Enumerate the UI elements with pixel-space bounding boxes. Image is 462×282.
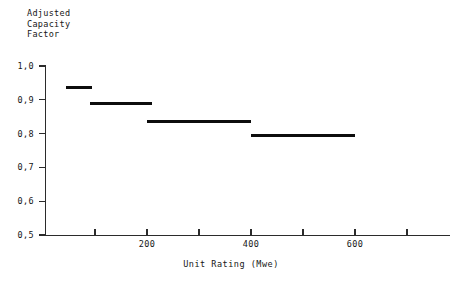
x-axis-line: [45, 235, 450, 236]
y-axis-title: Adjusted Capacity Factor: [27, 8, 70, 40]
step-segment: [90, 102, 152, 105]
y-tick-label: 1,0: [8, 61, 34, 71]
y-tick-label: 0,5: [8, 230, 34, 240]
x-tick: [302, 229, 303, 236]
x-tick: [146, 229, 147, 236]
y-tick-label: 0,6: [8, 196, 34, 206]
y-tick-label: 0,9: [8, 95, 34, 105]
x-tick: [94, 229, 95, 236]
y-axis-line: [45, 66, 46, 236]
x-tick: [354, 229, 355, 236]
x-tick: [198, 229, 199, 236]
x-axis-title: Unit Rating (Mwe): [0, 259, 462, 269]
step-segment: [66, 86, 92, 89]
x-tick: [250, 229, 251, 236]
x-tick-label: 200: [127, 239, 167, 249]
y-tick: [39, 65, 46, 66]
step-segment: [251, 134, 355, 137]
y-tick: [39, 167, 46, 168]
x-tick-label: 600: [335, 239, 375, 249]
y-tick: [39, 234, 46, 235]
chart-container: Adjusted Capacity Factor 1,00,90,80,70,6…: [0, 0, 462, 282]
y-tick: [39, 133, 46, 134]
y-tick: [39, 201, 46, 202]
x-tick: [406, 229, 407, 236]
x-tick-label: 400: [231, 239, 271, 249]
y-tick-label: 0,8: [8, 129, 34, 139]
step-segment: [147, 120, 251, 123]
y-tick-label: 0,7: [8, 162, 34, 172]
y-tick: [39, 99, 46, 100]
